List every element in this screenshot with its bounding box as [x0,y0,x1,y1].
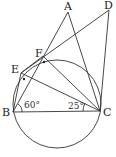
label-A: A [63,0,73,13]
segment-AB [13,12,68,112]
label-C: C [103,106,111,119]
label-B: B [2,106,10,119]
angle-arc-B [18,104,22,112]
angle-mark-F [43,61,45,63]
label-D: D [104,0,113,12]
segment-DE [21,10,109,73]
geometry-diagram: A D F E B C 60° 25° [0,0,116,157]
segment-BC [13,111,100,112]
angle-label-C: 25° [68,101,84,111]
angle-mark-E [23,78,25,80]
label-F: F [35,47,43,60]
label-E: E [11,63,19,76]
angle-label-B: 60° [24,100,40,110]
segment-DC [100,10,109,111]
